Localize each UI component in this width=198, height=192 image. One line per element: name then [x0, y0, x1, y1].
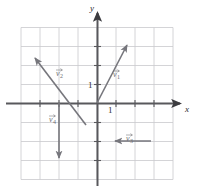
vector-v1-label: v 1	[113, 71, 120, 80]
vector-v3-label: v 3	[126, 135, 133, 144]
v4-vector-overbar	[49, 114, 56, 117]
vector-v4-subscript: 4	[53, 119, 56, 125]
v3-vector-overbar	[126, 133, 133, 136]
vector-v1-subscript: 1	[117, 74, 120, 80]
vector-arrows	[35, 45, 151, 158]
v2-vector-overbar	[56, 68, 63, 71]
vector-v3-subscript: 3	[130, 138, 133, 144]
vector-v2-subscript: 2	[60, 73, 63, 79]
vector-v2-label: v 2	[56, 70, 63, 79]
coordinate-plane-svg	[0, 0, 198, 192]
y-unit-label: 1	[88, 81, 93, 90]
x-axis-label: x	[185, 105, 189, 114]
x-unit-label: 1	[108, 106, 113, 115]
vector-v4-label: v 4	[49, 116, 56, 125]
vector-diagram-figure: y x 1 1 v 1 v 2 v 3	[0, 0, 198, 192]
vector-v1-arrow	[97, 45, 127, 103]
y-axis-label: y	[90, 4, 94, 13]
v1-vector-overbar	[113, 69, 120, 72]
